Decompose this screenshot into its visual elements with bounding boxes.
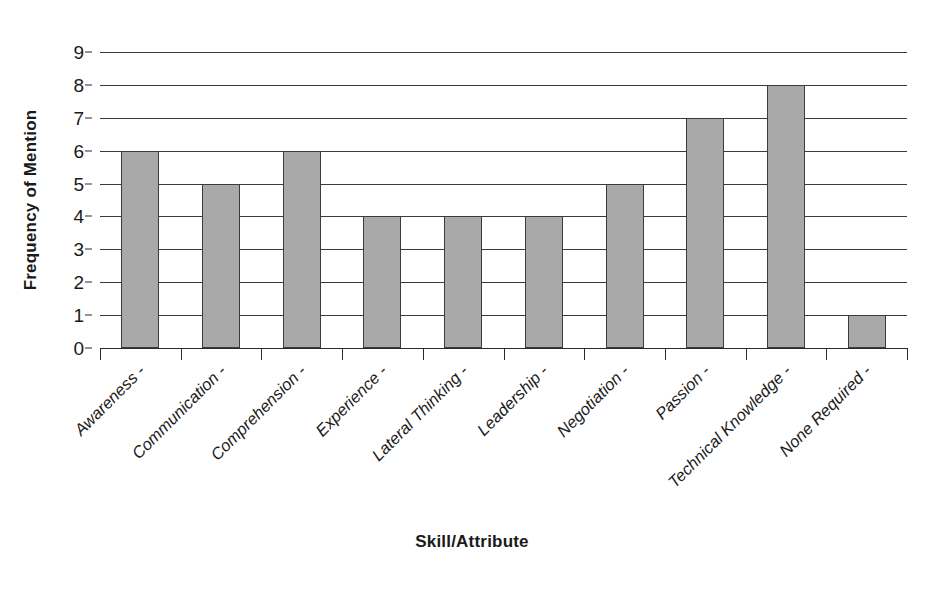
- bar[interactable]: [525, 216, 563, 348]
- y-axis-tick-label: 6: [73, 141, 84, 160]
- x-axis-tick-mark: [342, 349, 343, 360]
- plot-area: [100, 52, 907, 348]
- y-axis-tick-label: 4: [73, 207, 84, 226]
- bar[interactable]: [363, 216, 401, 348]
- y-axis-tick-label: 0: [73, 339, 84, 358]
- x-axis-tick-mark: [665, 349, 666, 360]
- x-axis-tick-mark: [907, 349, 908, 360]
- y-axis-tick-mark: [85, 315, 92, 316]
- y-axis-tick-mark: [85, 84, 92, 85]
- bar[interactable]: [121, 151, 159, 348]
- x-axis-tick-mark: [261, 349, 262, 360]
- bar[interactable]: [444, 216, 482, 348]
- y-axis-tick-mark: [85, 348, 92, 349]
- y-axis-title: Frequency of Mention: [14, 52, 48, 348]
- bar[interactable]: [848, 315, 886, 348]
- bars-layer: [100, 52, 907, 348]
- y-axis-tick-mark: [85, 52, 92, 53]
- bar[interactable]: [283, 151, 321, 348]
- x-axis-tick-mark: [181, 349, 182, 360]
- y-axis-tick-mark: [85, 150, 92, 151]
- y-axis-tick-label: 2: [73, 273, 84, 292]
- y-axis-tick-mark: [85, 249, 92, 250]
- bar[interactable]: [767, 85, 805, 348]
- y-axis-tick-mark: [85, 216, 92, 217]
- bar[interactable]: [606, 184, 644, 348]
- x-axis-tick-mark: [423, 349, 424, 360]
- x-axis-tick-mark: [826, 349, 827, 360]
- y-axis-title-text: Frequency of Mention: [21, 110, 41, 291]
- x-axis-title: Skill/Attribute: [0, 532, 944, 552]
- y-axis-tick-label: 5: [73, 174, 84, 193]
- x-axis-tick-mark: [746, 349, 747, 360]
- y-axis-tick-mark: [85, 117, 92, 118]
- x-axis-tick-mark: [100, 349, 101, 360]
- y-axis-tick-labels: 0123456789: [56, 52, 92, 348]
- y-axis-tick-label: 7: [73, 108, 84, 127]
- y-axis-tick-mark: [85, 183, 92, 184]
- x-axis-tick-mark: [504, 349, 505, 360]
- y-axis-tick-label: 8: [73, 75, 84, 94]
- y-axis-tick-label: 9: [73, 43, 84, 62]
- y-axis-tick-label: 1: [73, 306, 84, 325]
- y-axis-tick-label: 3: [73, 240, 84, 259]
- x-axis-tick-mark: [584, 349, 585, 360]
- bar[interactable]: [202, 184, 240, 348]
- bar-chart: Frequency of Mention 0123456789 Awarenes…: [0, 0, 944, 598]
- y-axis-tick-mark: [85, 282, 92, 283]
- bar[interactable]: [686, 118, 724, 348]
